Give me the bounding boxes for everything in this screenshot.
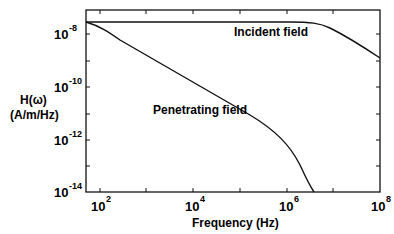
svg-text:10: 10 [371, 199, 385, 214]
svg-text:10: 10 [91, 199, 105, 214]
y-ticks [86, 34, 380, 166]
svg-text:8: 8 [386, 194, 391, 204]
svg-text:-12: -12 [69, 129, 82, 139]
incident-field-label: Incident field [234, 25, 308, 39]
svg-text:10: 10 [279, 199, 293, 214]
penetrating-field-label: Penetrating field [153, 103, 247, 117]
chart: 10 -8 10 -10 10 -12 10 -14 10 2 10 4 10 … [0, 0, 394, 234]
svg-text:10: 10 [185, 199, 199, 214]
svg-text:-14: -14 [69, 181, 82, 191]
svg-text:2: 2 [106, 194, 111, 204]
y-axis-title-line1: H(ω) [20, 93, 47, 107]
svg-text:10: 10 [54, 133, 68, 148]
svg-text:10: 10 [54, 185, 68, 200]
incident-field-line [86, 22, 380, 58]
svg-text:6: 6 [294, 194, 299, 204]
y-axis-title-line2: (A/m/Hz) [10, 108, 59, 122]
x-axis-title: Frequency (Hz) [192, 216, 279, 230]
plot-frame [86, 10, 380, 192]
svg-text:10: 10 [54, 80, 68, 95]
y-tick-base: 10 [54, 27, 68, 42]
svg-text:10: 10 [54, 27, 68, 42]
svg-text:4: 4 [200, 194, 205, 204]
svg-text:-8: -8 [69, 23, 77, 33]
svg-text:-10: -10 [69, 76, 82, 86]
x-tick-labels: 10 2 10 4 10 6 10 8 [91, 194, 391, 214]
